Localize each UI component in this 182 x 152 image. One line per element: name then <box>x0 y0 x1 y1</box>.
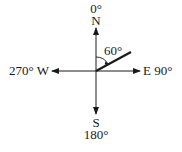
compass-diagram: 0° N 60° 270° W E 90° S 180° <box>0 0 182 152</box>
north-label: N <box>91 13 101 28</box>
angle-label: 60° <box>104 43 122 58</box>
east-label: E 90° <box>143 63 172 78</box>
south-degree-label: 180° <box>84 127 109 142</box>
west-label: 270° W <box>9 63 50 78</box>
